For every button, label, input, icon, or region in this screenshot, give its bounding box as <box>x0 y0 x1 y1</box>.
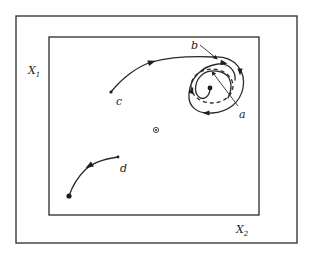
arrow-icon <box>147 58 156 66</box>
trajectory-label-c: c <box>116 95 122 108</box>
annotation-b: b <box>191 39 216 58</box>
trajectory-d-end-point <box>66 193 71 198</box>
axis-label-x1: X1 <box>27 64 40 79</box>
annotation-label-b: b <box>191 39 198 52</box>
limit-cycle-attractor <box>188 57 243 116</box>
inner-region-box <box>49 37 259 215</box>
trajectory-d-start-point <box>117 156 120 159</box>
inner-spiral-start-point <box>208 86 213 91</box>
inner-spiral-trajectory <box>196 71 231 98</box>
axis-label-x2: X2 <box>235 223 249 238</box>
outer-spiral-trajectory <box>189 57 244 113</box>
annotation-label-a: a <box>239 108 246 121</box>
phase-portrait-diagram: X1 X2 c d a b <box>0 0 312 254</box>
trajectory-d: d <box>66 156 127 199</box>
equilibrium-point-icon <box>153 127 158 132</box>
trajectory-c-start-point <box>109 90 112 93</box>
leader-line-a <box>213 73 238 106</box>
trajectory-c: c <box>109 57 214 108</box>
arrow-icon <box>203 110 210 115</box>
trajectory-label-d: d <box>120 162 127 175</box>
leader-line-b <box>200 45 216 58</box>
dashed-limit-cycle <box>191 69 233 103</box>
